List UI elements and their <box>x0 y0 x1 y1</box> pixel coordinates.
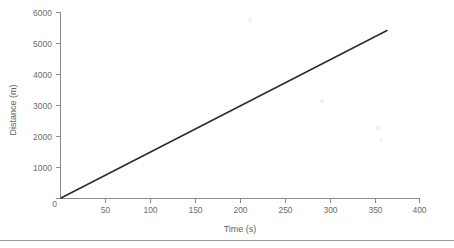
y-axis-title: Distance (m) <box>8 84 18 135</box>
y-tick-label: 4000 <box>33 70 52 80</box>
x-tick-labels: 50 100 150 200 250 300 350 400 <box>101 205 427 215</box>
y-tick-label-zero: 0 <box>52 199 57 209</box>
y-tick-labels: 6000 5000 4000 3000 2000 1000 0 <box>33 8 57 210</box>
x-tick-label: 100 <box>143 205 157 215</box>
x-axis <box>61 199 421 204</box>
distance-time-chart: 6000 5000 4000 3000 2000 1000 0 50 100 1… <box>0 0 454 248</box>
figure-container: 6000 5000 4000 3000 2000 1000 0 50 100 1… <box>0 0 454 248</box>
x-tick-label: 200 <box>233 205 247 215</box>
y-tick-label: 3000 <box>33 101 52 111</box>
data-series-distance-vs-time <box>61 31 387 199</box>
y-axis <box>56 12 61 199</box>
x-tick-label: 50 <box>101 205 111 215</box>
x-tick-label: 350 <box>368 205 382 215</box>
x-tick-label: 250 <box>278 205 292 215</box>
y-tick-label: 5000 <box>33 39 52 49</box>
y-tick-label: 6000 <box>33 8 52 18</box>
x-tick-label: 300 <box>323 205 337 215</box>
y-tick-label: 1000 <box>33 163 52 173</box>
x-axis-title: Time (s) <box>224 224 257 234</box>
scan-artifacts <box>248 18 383 142</box>
x-tick-label: 150 <box>188 205 202 215</box>
y-tick-label: 2000 <box>33 132 52 142</box>
x-tick-label: 400 <box>412 205 426 215</box>
